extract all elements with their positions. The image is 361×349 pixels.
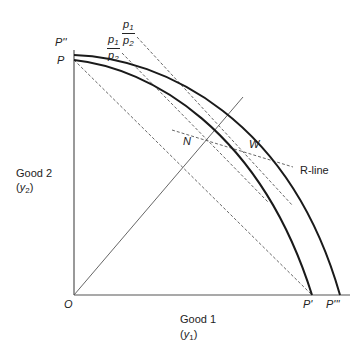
y-axis-label: Good 2 <box>16 168 52 179</box>
label-origin: O <box>64 299 73 310</box>
x-axis-var: (y1) <box>180 329 197 342</box>
ray-from-origin <box>74 97 243 295</box>
y-axis-var: (y2) <box>16 182 33 195</box>
label-p-double-prime: P'' <box>55 37 67 48</box>
label-r-line: R-line <box>300 165 329 176</box>
x-axis-label: Good 1 <box>180 314 216 325</box>
price-ratio-outer: p1 p2 <box>122 19 135 48</box>
label-p: P <box>57 55 64 66</box>
price-line-outer <box>137 37 293 206</box>
price-ratio-inner: p1 p2 <box>107 34 120 63</box>
dashed-line-p-to-p-prime <box>74 60 312 295</box>
label-p-prime: P' <box>303 299 312 310</box>
label-p-triple-prime: P''' <box>326 299 340 310</box>
label-n: N <box>183 136 191 147</box>
label-w: W <box>249 139 259 150</box>
